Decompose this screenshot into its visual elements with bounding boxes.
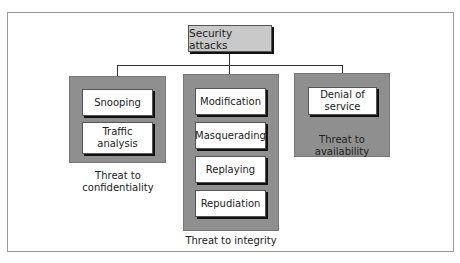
group-caption-integrity: Threat to integrity: [178, 235, 284, 247]
leaf-label-line2: service: [325, 101, 361, 113]
caption-line2: availability: [296, 146, 388, 158]
leaf-label: Repudiation: [201, 198, 261, 210]
leaf-label: Snooping: [94, 97, 141, 109]
leaf-node-modification: Modification: [195, 88, 266, 115]
leaf-label-line1: Denial of: [320, 89, 365, 101]
caption-line1: Threat to: [72, 170, 164, 182]
leaf-node-repudiation: Repudiation: [195, 190, 266, 217]
group-caption-confidentiality: Threat to confidentiality: [72, 170, 164, 194]
caption-text: Threat to integrity: [185, 235, 276, 246]
leaf-node-masquerading: Masquerading: [195, 122, 266, 149]
leaf-node-replaying: Replaying: [195, 156, 266, 183]
leaf-node-snooping: Snooping: [82, 89, 153, 116]
leaf-label: Masquerading: [195, 130, 266, 142]
horizontal-connector: [117, 65, 343, 66]
caption-line1: Threat to: [296, 134, 388, 146]
group-caption-availability: Threat to availability: [296, 134, 388, 158]
leaf-label-line2: analysis: [97, 138, 138, 150]
root-node-security-attacks: Security attacks: [188, 25, 272, 52]
leaf-node-traffic-analysis: Traffic analysis: [82, 122, 153, 154]
root-label: Security attacks: [189, 27, 271, 51]
caption-line2: confidentiality: [72, 182, 164, 194]
root-stem-connector: [229, 52, 230, 74]
leaf-label-line1: Traffic: [102, 126, 132, 138]
leaf-label: Modification: [200, 96, 261, 108]
leaf-label: Replaying: [206, 164, 255, 176]
leaf-node-denial-of-service: Denial of service: [308, 87, 377, 115]
